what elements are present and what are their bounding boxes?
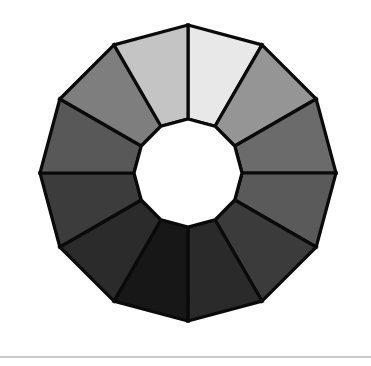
segmented-wheel-chart: Segment 1Segment 2Segment 3Segment 4Segm… (0, 0, 371, 366)
wheel-hub (134, 119, 242, 227)
footer-divider (0, 356, 371, 358)
figure-root: Segment 1Segment 2Segment 3Segment 4Segm… (0, 0, 371, 366)
